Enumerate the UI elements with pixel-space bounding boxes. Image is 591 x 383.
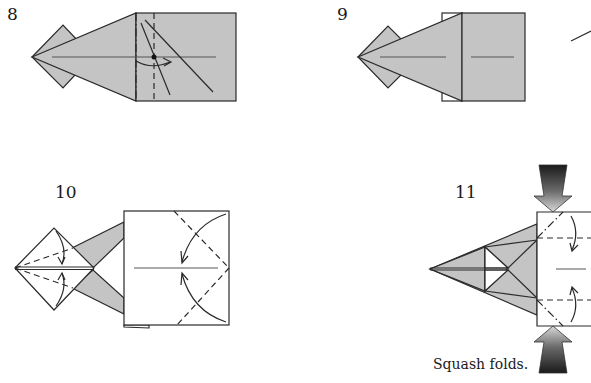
step-11-diagram [430,165,591,373]
step-10-diagram [15,211,229,328]
step-9-diagram [358,13,591,101]
origami-diagram [0,0,591,383]
step11-inner-left [430,247,485,291]
push-arrow-top-icon [534,165,572,212]
step9-stray-line [571,31,591,41]
step-8-diagram [32,13,236,101]
push-arrow-bottom-icon [534,326,572,373]
step8-pivot-dot [152,55,157,60]
